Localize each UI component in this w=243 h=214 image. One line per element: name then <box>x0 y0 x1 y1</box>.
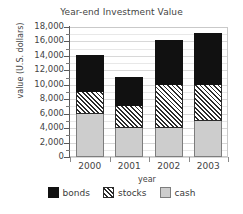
legend-label: stocks <box>118 188 147 198</box>
legend-swatch-cash-icon <box>160 187 171 198</box>
bar-segment-bonds[interactable] <box>115 77 143 107</box>
y-axis-tick-label: 12,000 <box>14 65 64 74</box>
bar-segment-cash[interactable] <box>115 127 143 157</box>
legend-label: bonds <box>63 188 90 198</box>
chart-title: Year-end Investment Value <box>0 7 243 17</box>
bar-segment-bonds[interactable] <box>76 55 104 92</box>
x-axis-tick-label: 2001 <box>107 161 151 171</box>
bar-segment-cash[interactable] <box>194 120 222 157</box>
legend-item-stocks[interactable]: stocks <box>103 187 147 198</box>
bar-segment-bonds[interactable] <box>194 33 222 85</box>
bar-segment-stocks[interactable] <box>194 84 222 121</box>
y-axis-tick-label: 6,000 <box>14 109 64 118</box>
y-axis-tick-label: 14,000 <box>14 51 64 60</box>
legend-swatch-bonds-icon <box>48 187 59 198</box>
legend-swatch-stocks-icon <box>103 187 114 198</box>
bar-segment-bonds[interactable] <box>155 40 183 84</box>
x-axis-tick-label: 2002 <box>147 161 191 171</box>
bar-segment-stocks[interactable] <box>76 91 104 114</box>
y-axis-tick-label: 10,000 <box>14 80 64 89</box>
bar-segment-cash[interactable] <box>76 113 104 157</box>
chart-figure: Year-end Investment Value value (U.S. do… <box>0 0 243 214</box>
legend-label: cash <box>175 188 196 198</box>
y-axis-tick-label: 2,000 <box>14 138 64 147</box>
y-axis-tick-label: 0 <box>14 152 64 161</box>
bar-segment-cash[interactable] <box>155 127 183 157</box>
x-axis-tick-label: 2000 <box>68 161 112 171</box>
y-axis-tick-label: 18,000 <box>14 22 64 31</box>
bar-segment-stocks[interactable] <box>115 105 143 128</box>
bar-segment-stocks[interactable] <box>155 84 183 128</box>
chart-legend: bondsstockscash <box>0 187 243 198</box>
x-axis-tick-label: 2003 <box>186 161 230 171</box>
legend-item-bonds[interactable]: bonds <box>48 187 90 198</box>
y-axis-tick-label: 4,000 <box>14 123 64 132</box>
y-axis-tick-label: 8,000 <box>14 94 64 103</box>
plot-area <box>70 27 228 157</box>
legend-item-cash[interactable]: cash <box>160 187 196 198</box>
x-axis-title: year <box>62 175 232 184</box>
y-axis-tick-label: 16,000 <box>14 36 64 45</box>
